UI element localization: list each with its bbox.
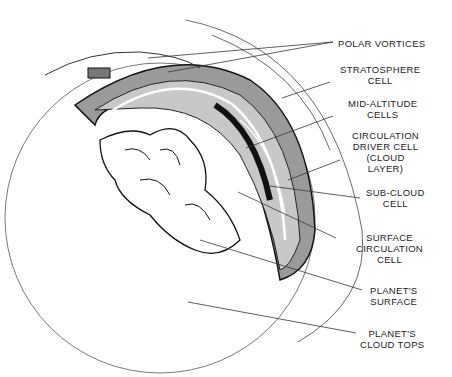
label-sub-cloud-cell: SUB-CLOUD CELL bbox=[366, 187, 425, 209]
label-polar-vortices: POLAR VORTICES bbox=[338, 38, 425, 49]
label-planets-cloud-tops: PLANET'S CLOUD TOPS bbox=[360, 328, 424, 350]
label-mid-altitude-cells: MID-ALTITUDE CELLS bbox=[348, 98, 417, 120]
label-planets-surface: PLANET'S SURFACE bbox=[370, 285, 418, 307]
label-surface-circulation-cell: SURFACE CIRCULATION CELL bbox=[356, 232, 423, 265]
label-stratosphere-cell: STRATOSPHERE CELL bbox=[340, 64, 420, 86]
label-circulation-driver-cell: CIRCULATION DRIVER CELL (CLOUD LAYER) bbox=[352, 130, 419, 174]
